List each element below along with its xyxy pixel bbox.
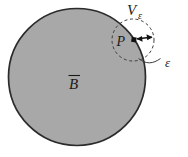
label-V-epsilon-subscript: ε <box>138 10 142 21</box>
epsilon-radius-arrow <box>137 34 153 42</box>
label-epsilon: ε <box>165 55 171 70</box>
label-V-epsilon: V ε <box>127 2 142 21</box>
figure-container: V ε P ε B <box>0 0 188 157</box>
label-B-bar-base: B <box>69 76 78 92</box>
point-P-marker <box>131 37 137 43</box>
math-diagram-svg: V ε P ε B <box>0 0 188 157</box>
label-point-P: P <box>116 34 126 49</box>
label-V-epsilon-base: V <box>127 2 138 18</box>
